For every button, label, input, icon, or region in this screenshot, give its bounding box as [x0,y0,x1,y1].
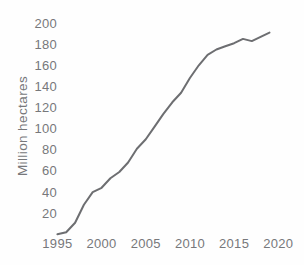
x-tick-label: 2020 [253,236,303,251]
x-tick-label: 2005 [121,236,171,251]
chart-figure: Million hectares 20406080100120140160180… [0,0,304,265]
y-tick-label: 40 [0,185,57,200]
y-tick-label: 60 [0,163,57,178]
x-tick-label: 1995 [32,236,82,251]
y-tick-label: 180 [0,37,57,52]
y-tick-label: 80 [0,142,57,157]
y-tick-label: 140 [0,79,57,94]
x-tick-label: 2000 [77,236,127,251]
y-tick-label: 160 [0,58,57,73]
y-tick-label: 20 [0,206,57,221]
trend-line [57,33,269,235]
y-tick-label: 200 [0,16,57,31]
y-tick-label: 120 [0,100,57,115]
x-tick-label: 2015 [209,236,259,251]
x-tick-label: 2010 [165,236,215,251]
y-tick-label: 100 [0,121,57,136]
